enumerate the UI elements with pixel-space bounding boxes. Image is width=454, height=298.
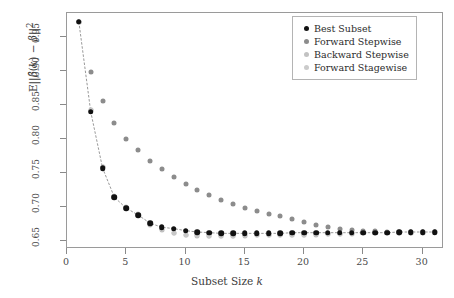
- legend-item[interactable]: Best Subset: [298, 22, 409, 35]
- x-tick-label: 15: [229, 256, 259, 267]
- data-point: [171, 174, 176, 179]
- data-point: [349, 230, 355, 236]
- y-tick-label: 0.80: [16, 130, 56, 140]
- y-tick-label: 0.90: [16, 62, 56, 72]
- legend-marker-icon: [298, 39, 314, 44]
- data-point: [290, 217, 295, 222]
- y-tick-label: 0.95: [16, 28, 56, 38]
- x-tick-mark: [185, 248, 186, 254]
- x-title-prefix: Subset Size: [191, 275, 256, 287]
- legend-item-label: Forward Stagewise: [314, 62, 407, 73]
- data-point: [219, 198, 224, 203]
- legend-item[interactable]: Backward Stepwise: [298, 48, 409, 61]
- chart-figure: E||β̂(k) − β||2 0.650.700.750.800.850.90…: [0, 0, 454, 298]
- data-point: [195, 187, 200, 192]
- legend-marker-icon: [298, 26, 314, 31]
- data-point: [266, 211, 271, 216]
- data-point: [242, 205, 247, 210]
- data-point: [432, 229, 438, 235]
- legend-marker-icon: [298, 52, 314, 57]
- x-tick-mark: [362, 248, 363, 254]
- data-point: [384, 230, 390, 236]
- data-point: [325, 230, 331, 236]
- legend: Best SubsetForward StepwiseBackward Step…: [292, 16, 417, 80]
- data-point: [289, 230, 295, 236]
- y-tick-label: 0.75: [16, 164, 56, 174]
- data-point: [112, 121, 117, 126]
- data-point: [372, 230, 378, 236]
- x-tick-mark: [244, 248, 245, 254]
- data-point: [147, 220, 153, 226]
- data-point: [123, 205, 129, 211]
- data-point: [147, 158, 152, 163]
- data-point: [325, 224, 330, 229]
- data-point: [136, 148, 141, 153]
- data-point: [396, 229, 402, 235]
- data-point: [124, 136, 129, 141]
- y-tick-label: 0.70: [16, 198, 56, 208]
- data-point: [420, 229, 426, 235]
- data-point: [207, 193, 212, 198]
- legend-item[interactable]: Forward Stagewise: [298, 61, 409, 74]
- data-point: [159, 167, 164, 172]
- x-tick-label: 25: [347, 256, 377, 267]
- data-point: [278, 214, 283, 219]
- data-point: [76, 19, 82, 25]
- x-tick-label: 30: [407, 256, 437, 267]
- x-tick-label: 0: [51, 256, 81, 267]
- data-point: [337, 230, 343, 236]
- y-tick-label: 0.65: [16, 232, 56, 242]
- x-tick-mark: [125, 248, 126, 254]
- legend-item-label: Backward Stepwise: [314, 49, 409, 60]
- data-point: [100, 98, 105, 103]
- data-point: [195, 229, 201, 235]
- data-point: [183, 181, 188, 186]
- data-point: [242, 231, 248, 237]
- data-point: [301, 230, 307, 236]
- x-tick-mark: [422, 248, 423, 254]
- legend-item-label: Forward Stepwise: [314, 36, 401, 47]
- legend-item-label: Best Subset: [314, 23, 371, 34]
- x-tick-mark: [303, 248, 304, 254]
- data-point: [408, 229, 414, 235]
- data-point: [206, 230, 212, 236]
- x-title-k: k: [257, 275, 263, 287]
- x-axis-title: Subset Size k: [0, 275, 454, 287]
- data-point: [313, 230, 319, 236]
- x-tick-label: 5: [110, 256, 140, 267]
- data-point: [230, 231, 236, 237]
- data-point: [100, 165, 106, 171]
- legend-item[interactable]: Forward Stepwise: [298, 35, 409, 48]
- data-point: [266, 231, 272, 237]
- data-point: [278, 231, 284, 237]
- y-title-minus: −: [27, 41, 39, 56]
- data-point: [313, 222, 318, 227]
- data-point: [159, 224, 165, 230]
- data-point: [254, 208, 259, 213]
- y-tick-label: 0.85: [16, 96, 56, 106]
- data-point: [135, 212, 141, 218]
- data-point: [112, 195, 118, 201]
- legend-marker-icon: [298, 65, 314, 70]
- data-point: [254, 231, 260, 237]
- data-point: [218, 231, 224, 237]
- x-tick-mark: [66, 248, 67, 254]
- x-tick-label: 10: [170, 256, 200, 267]
- data-point: [230, 202, 235, 207]
- data-point: [302, 219, 307, 224]
- data-point: [361, 230, 367, 236]
- x-tick-label: 20: [288, 256, 318, 267]
- data-point: [88, 70, 93, 75]
- data-point: [171, 226, 177, 232]
- data-point: [183, 228, 189, 234]
- y-title-prefix: E||: [27, 77, 39, 92]
- data-point: [88, 109, 94, 115]
